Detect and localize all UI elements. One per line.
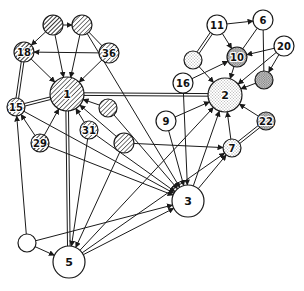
node-f [255, 71, 273, 89]
node-20: 20 [274, 36, 294, 56]
node-15: 15 [7, 98, 25, 116]
node-6: 6 [253, 10, 273, 30]
edge-18-to-1 [31, 59, 55, 82]
node-9: 9 [156, 111, 176, 131]
edge-9-to-3 [169, 131, 184, 186]
node-10: 10 [227, 47, 247, 67]
node-16: 16 [173, 73, 193, 93]
edge-9-to-2 [175, 102, 209, 117]
edge-7-to-2 [227, 112, 231, 139]
node-g [18, 234, 36, 252]
mutual-edge-1-5 [66, 111, 68, 246]
edge-G-to-15 [17, 116, 27, 234]
node-circle [18, 234, 36, 252]
node-circle [43, 15, 63, 35]
node-11: 11 [207, 15, 227, 35]
edge-15-to-3 [24, 111, 174, 193]
mutual-edge-1-2 [84, 95, 208, 96]
node-c [99, 99, 117, 117]
edge-31-to-5 [71, 139, 87, 246]
node-label: 36 [102, 48, 116, 59]
node-label: 9 [163, 116, 170, 127]
node-label: 29 [33, 138, 47, 149]
node-circle [184, 51, 202, 69]
node-circle [114, 133, 134, 153]
node-label: 18 [17, 47, 31, 58]
node-e [184, 51, 202, 69]
node-label: 31 [82, 125, 96, 136]
node-label: 15 [9, 102, 23, 113]
node-circle [99, 99, 117, 117]
node-label: 11 [210, 20, 224, 31]
node-circle [72, 15, 92, 35]
edge-5-to-2 [80, 107, 213, 250]
node-label: 1 [63, 88, 71, 101]
mutual-edge-11-E [197, 33, 210, 52]
edge-31-to-1 [76, 109, 84, 123]
node-label: 22 [259, 116, 273, 127]
node-36: 36 [99, 43, 119, 63]
mutual-edge-18-15 [19, 62, 24, 98]
node-label: 20 [277, 41, 291, 52]
node-7: 7 [223, 139, 241, 157]
node-2: 2 [208, 78, 242, 112]
node-label: 3 [184, 195, 192, 208]
mutual-edge-1-5 [69, 111, 71, 246]
edge-11-to-6 [227, 21, 253, 24]
node-29: 29 [31, 134, 49, 152]
node-circle [255, 71, 273, 89]
edge-F-to-2 [241, 83, 256, 89]
edge-3-to-2 [193, 111, 219, 186]
edge-20-to-10 [247, 48, 275, 54]
mutual-edge-11-E [199, 34, 212, 53]
edge-10-to-2 [230, 67, 234, 79]
node-label: 2 [221, 89, 229, 102]
node-a [43, 15, 63, 35]
edge-A-to-1 [55, 35, 64, 78]
node-label: 5 [65, 256, 73, 269]
edge-C-to-1 [83, 99, 99, 105]
mutual-edge-22-7 [238, 126, 258, 142]
edge-29-to-1 [44, 109, 58, 135]
edge-G-to-5 [35, 247, 54, 256]
node-label: 6 [260, 15, 267, 26]
node-d [114, 133, 134, 153]
network-diagram: 183611529311161020162922735 [0, 0, 304, 291]
edge-11-to-10 [222, 33, 231, 48]
edge-B-to-1 [71, 35, 80, 78]
node-b [72, 15, 92, 35]
edge-D-to-5 [76, 152, 120, 247]
edge-29-to-15 [21, 114, 35, 135]
node-22: 22 [257, 112, 275, 130]
node-3: 3 [172, 185, 204, 217]
node-18: 18 [14, 42, 34, 62]
mutual-edge-22-7 [240, 128, 260, 144]
node-31: 31 [80, 121, 98, 139]
node-label: 7 [229, 143, 236, 154]
edge-36-to-18 [34, 52, 99, 53]
edge-36-to-1 [79, 60, 102, 82]
node-1: 1 [50, 77, 84, 111]
node-label: 16 [176, 78, 190, 89]
edge-6-to-10 [243, 28, 258, 49]
node-label: 10 [230, 52, 244, 63]
edge-A-to-18 [31, 32, 45, 45]
mutual-edge-18-15 [16, 62, 21, 98]
mutual-edge-1-2 [84, 93, 208, 94]
node-5: 5 [53, 246, 85, 278]
edge-G-to-3 [36, 205, 173, 241]
edge-22-to-2 [239, 104, 258, 116]
